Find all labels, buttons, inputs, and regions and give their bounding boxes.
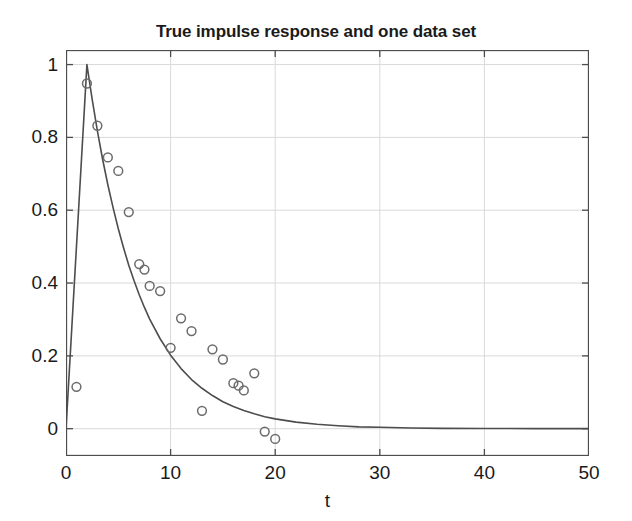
data-point-marker <box>234 381 243 390</box>
data-point-marker <box>208 345 217 354</box>
data-point-marker <box>187 327 196 336</box>
y-axis-tick-labels: 00.20.40.60.81 <box>0 50 58 456</box>
x-tick-label: 50 <box>578 462 599 484</box>
x-tick-label: 30 <box>369 462 390 484</box>
x-tick-label: 40 <box>474 462 495 484</box>
y-tick-label: 0.4 <box>32 272 58 294</box>
data-point-marker <box>124 208 133 217</box>
data-point-marker <box>103 153 112 162</box>
plot-border <box>67 51 589 456</box>
y-tick-label: 1 <box>47 54 58 76</box>
grid-lines <box>66 50 589 456</box>
x-tick-label: 10 <box>160 462 181 484</box>
data-series-layer <box>66 65 589 444</box>
y-tick-label: 0 <box>47 418 58 440</box>
data-point-marker <box>114 166 123 175</box>
y-tick-label: 0.6 <box>32 199 58 221</box>
chart-title: True impulse response and one data set <box>0 22 632 42</box>
x-tick-label: 0 <box>61 462 72 484</box>
x-tick-label: 20 <box>265 462 286 484</box>
x-axis-label: t <box>66 490 589 512</box>
data-point-marker <box>229 379 238 388</box>
data-point-marker <box>198 406 207 415</box>
data-point-marker <box>177 314 186 323</box>
y-tick-label: 0.2 <box>32 345 58 367</box>
data-point-marker <box>135 260 144 269</box>
axis-ticks <box>66 50 589 456</box>
figure-canvas: True impulse response and one data set 0… <box>0 0 632 521</box>
data-point-marker <box>140 265 149 274</box>
data-point-marker <box>156 287 165 296</box>
data-point-marker <box>219 355 228 364</box>
data-point-marker <box>239 386 248 395</box>
plot-svg <box>66 50 589 456</box>
data-point-marker <box>72 382 81 391</box>
x-axis-tick-labels: 01020304050 <box>66 462 589 492</box>
impulse-response-curve <box>66 65 589 429</box>
y-tick-label: 0.8 <box>32 126 58 148</box>
plot-area <box>66 50 589 456</box>
data-point-marker <box>250 369 259 378</box>
